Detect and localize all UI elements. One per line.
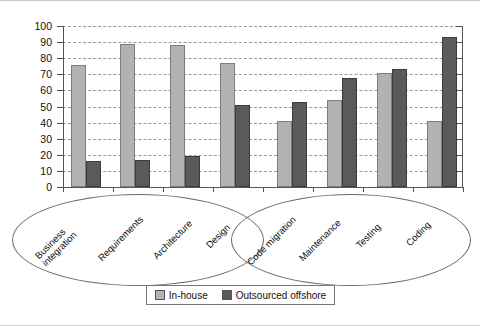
legend-label: In-house [169, 290, 208, 301]
legend-label: Outsourced offshore [236, 290, 326, 301]
bar-in-house [220, 63, 235, 187]
bar-in-house [71, 65, 86, 187]
bar-series-layer [63, 26, 463, 187]
y-tick-label: 30 [0, 134, 52, 145]
bar-in-house [120, 44, 135, 187]
y-tick-label: 40 [0, 118, 52, 129]
legend-swatch-icon [222, 290, 232, 300]
bar-in-house [170, 45, 185, 187]
y-tick-label: 0 [0, 182, 52, 193]
y-axis-labels: 1009080706050403020100 [0, 26, 55, 188]
y-tick-label: 90 [0, 37, 52, 48]
y-tick-label: 100 [0, 21, 52, 32]
bar-outsourced-offshore [86, 161, 101, 187]
bar-outsourced-offshore [185, 156, 200, 187]
legend-item-in-house: In-house [155, 290, 208, 301]
bar-in-house [377, 73, 392, 187]
x-axis-tick [463, 187, 464, 192]
legend-item-outsourced-offshore: Outsourced offshore [222, 290, 326, 301]
bar-in-house [327, 100, 342, 187]
y-tick-label: 10 [0, 166, 52, 177]
x-axis-tick [363, 187, 364, 192]
y-tick-label: 50 [0, 102, 52, 113]
bar-in-house [427, 121, 442, 187]
y-tick-label: 60 [0, 85, 52, 96]
legend-swatch-icon [155, 290, 165, 300]
y-tick-label: 20 [0, 150, 52, 161]
x-axis-tick [263, 187, 264, 192]
chart-legend: In-house Outsourced offshore [146, 285, 335, 305]
bar-outsourced-offshore [235, 105, 250, 187]
bar-outsourced-offshore [135, 160, 150, 187]
x-axis-tick [163, 187, 164, 192]
x-axis-tick [313, 187, 314, 192]
x-axis-tick [213, 187, 214, 192]
bar-outsourced-offshore [342, 78, 357, 187]
bar-outsourced-offshore [292, 102, 307, 187]
x-axis-tick [63, 187, 64, 192]
y-tick-label: 80 [0, 53, 52, 64]
y-tick-label: 70 [0, 69, 52, 80]
bar-outsourced-offshore [442, 37, 457, 187]
bar-outsourced-offshore [392, 69, 407, 187]
bar-in-house [277, 121, 292, 187]
x-axis-tick [413, 187, 414, 192]
chart-container: 1009080706050403020100 Percent Businessi… [0, 0, 480, 326]
x-axis-tick [113, 187, 114, 192]
